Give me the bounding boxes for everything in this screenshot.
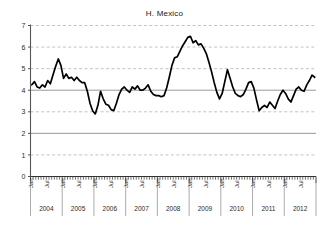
gridlines-group [31, 26, 317, 155]
chart-container: H. Mexico 01234567 JanJul2004JanJul2005J… [0, 0, 329, 225]
y-tick-labels: 01234567 [22, 22, 26, 180]
y-tick-label: 6 [22, 44, 26, 51]
y-tick-label: 0 [22, 173, 26, 180]
y-tick-label: 4 [22, 87, 26, 94]
y-axis [28, 25, 31, 177]
y-tick-label: 3 [22, 108, 26, 115]
chart-plot-area: 01234567 [0, 0, 329, 225]
y-tick-label: 1 [22, 152, 26, 159]
data-series-line [32, 36, 315, 114]
y-tick-label: 5 [22, 65, 26, 72]
y-tick-label: 2 [22, 130, 26, 137]
series-line-h-mexico [32, 36, 315, 114]
y-tick-label: 7 [22, 22, 26, 29]
x-axis [31, 177, 317, 217]
